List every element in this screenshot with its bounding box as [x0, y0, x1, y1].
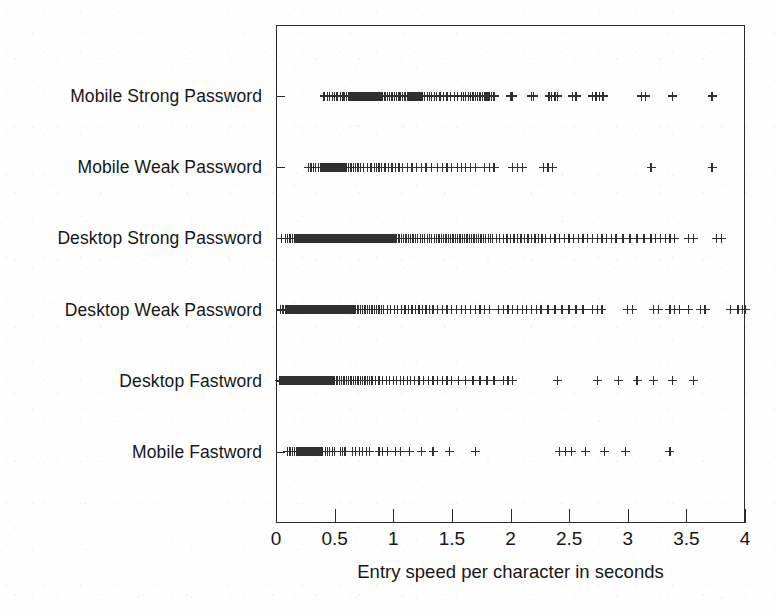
x-axis-tick-label: 3.5: [673, 528, 699, 550]
category-label-mobile-fastword: Mobile Fastword: [0, 441, 262, 462]
x-axis-tick-label: 1.5: [439, 528, 465, 550]
y-axis-tick: [276, 381, 285, 382]
category-label-mobile-weak-password: Mobile Weak Password: [0, 157, 262, 178]
category-label-desktop-weak-password: Desktop Weak Password: [0, 299, 262, 320]
category-label-desktop-fastword: Desktop Fastword: [0, 370, 262, 391]
x-axis-tick: [745, 509, 746, 523]
x-axis-tick-label: 3: [622, 528, 633, 550]
x-axis-tick: [686, 509, 687, 523]
y-axis-tick: [276, 452, 285, 453]
figure-container: Mobile Strong PasswordMobile Weak Passwo…: [0, 0, 777, 613]
x-axis-tick: [511, 509, 512, 523]
x-axis-tick: [569, 509, 570, 523]
x-axis-tick: [628, 509, 629, 523]
x-axis-tick: [276, 509, 277, 523]
x-axis-tick: [393, 509, 394, 523]
x-axis-tick-label: 2.5: [556, 528, 582, 550]
x-axis-tick-label: 2: [505, 528, 516, 550]
plot-frame: [276, 25, 745, 523]
x-axis-tick: [452, 509, 453, 523]
y-axis-tick: [276, 238, 285, 239]
category-label-mobile-strong-password: Mobile Strong Password: [0, 86, 262, 107]
category-label-desktop-strong-password: Desktop Strong Password: [0, 228, 262, 249]
y-axis-tick: [276, 96, 285, 97]
x-axis-tick-label: 1: [388, 528, 399, 550]
y-axis-tick: [276, 310, 285, 311]
x-axis-tick-label: 0.5: [321, 528, 347, 550]
x-axis-title: Entry speed per character in seconds: [276, 561, 745, 583]
x-axis-tick-label: 4: [740, 528, 751, 550]
x-axis-tick-label: 0: [271, 528, 282, 550]
x-axis-tick: [335, 509, 336, 523]
y-axis-tick: [276, 167, 285, 168]
